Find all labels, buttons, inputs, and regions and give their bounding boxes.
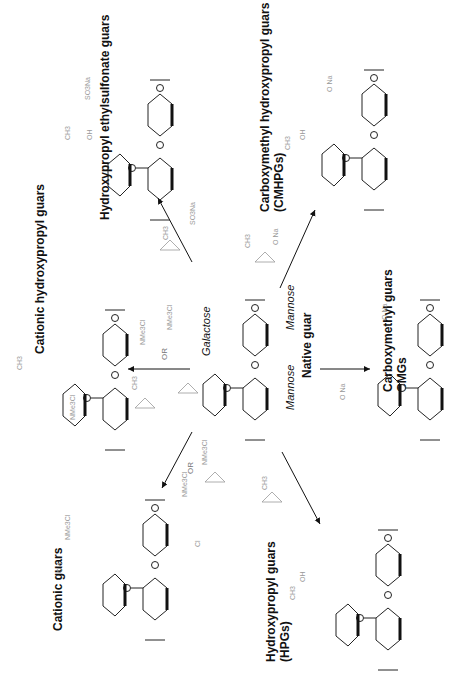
- svg-text:O Na: O Na: [326, 76, 333, 92]
- svg-text:CH3: CH3: [16, 356, 23, 370]
- svg-text:CH3: CH3: [284, 136, 291, 150]
- svg-text:Cl: Cl: [194, 540, 201, 547]
- svg-text:O Na: O Na: [272, 229, 279, 245]
- structure-chpg: [63, 310, 127, 450]
- structure-drawing: CH3 OH SO3Na CH3 OH O Na NMe3Cl CH3 O Na…: [0, 0, 473, 698]
- svg-text:CH3: CH3: [289, 586, 296, 600]
- reaction-scheme: Hydroxypropyl ethylsulfonate guars Carbo…: [0, 0, 473, 698]
- svg-text:NMe3Cl: NMe3Cl: [201, 439, 208, 465]
- svg-text:OH: OH: [299, 130, 306, 141]
- svg-text:SO3Na: SO3Na: [84, 77, 91, 100]
- svg-text:CH3: CH3: [162, 226, 169, 240]
- svg-text:NMe3Cl: NMe3Cl: [64, 514, 71, 540]
- svg-text:O Na: O Na: [381, 304, 388, 320]
- svg-text:OH: OH: [86, 130, 93, 141]
- arrow-to-hpg: [282, 452, 320, 524]
- svg-text:NMe3Cl: NMe3Cl: [181, 471, 188, 497]
- svg-text:NMe3Cl: NMe3Cl: [69, 394, 76, 420]
- svg-text:O Na: O Na: [339, 384, 346, 400]
- svg-text:CH3: CH3: [244, 234, 251, 248]
- structure-hpeg: [108, 80, 172, 220]
- svg-text:CH3: CH3: [64, 126, 71, 140]
- svg-text:SO3Na: SO3Na: [189, 202, 196, 225]
- svg-text:OH: OH: [56, 563, 63, 574]
- structure-cmg: [378, 300, 442, 440]
- structure-native-guar: [203, 300, 267, 440]
- structure-hpg: [336, 530, 400, 670]
- svg-text:OH: OH: [299, 572, 306, 583]
- svg-text:CH3: CH3: [131, 376, 138, 390]
- svg-text:NMe3Cl: NMe3Cl: [139, 319, 146, 345]
- arrow-to-cmhpg: [280, 210, 315, 288]
- svg-text:NMe3Cl: NMe3Cl: [166, 304, 173, 330]
- svg-text:CH3: CH3: [261, 476, 268, 490]
- structure-cg: [103, 500, 167, 640]
